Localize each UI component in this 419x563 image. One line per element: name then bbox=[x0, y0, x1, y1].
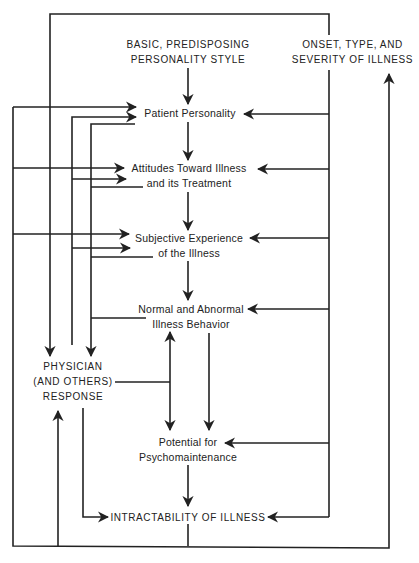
node-illness-behavior: Normal and Abnormal Illness Behavior bbox=[135, 302, 247, 332]
node-potential-line2: Psychomaintenance bbox=[136, 450, 240, 465]
node-onset-line1: ONSET, TYPE, AND bbox=[290, 37, 415, 52]
line-physician-up-72 bbox=[72, 117, 136, 345]
node-intractability-of-illness: INTRACTABILITY OF ILLNESS bbox=[110, 510, 266, 525]
line-to-physician-91 bbox=[91, 124, 135, 356]
node-physician-line2: (AND OTHERS) bbox=[30, 374, 116, 389]
node-onset-type-severity: ONSET, TYPE, AND SEVERITY OF ILLNESS bbox=[290, 37, 415, 67]
node-patient-personality-line1: Patient Personality bbox=[138, 106, 242, 121]
node-physician-response: PHYSICIAN (AND OTHERS) RESPONSE bbox=[30, 359, 116, 404]
node-behavior-line2: Illness Behavior bbox=[135, 317, 247, 332]
node-subjective-experience: Subjective Experience of the Illness bbox=[130, 231, 248, 261]
node-attitudes-line2: and its Treatment bbox=[126, 176, 252, 191]
node-basic-personality-style: BASIC, PREDISPOSING PERSONALITY STYLE bbox=[120, 37, 256, 67]
node-physician-line1: PHYSICIAN bbox=[30, 359, 116, 374]
node-subjective-line2: of the Illness bbox=[130, 246, 248, 261]
node-subjective-line1: Subjective Experience bbox=[130, 231, 248, 246]
node-onset-line2: SEVERITY OF ILLNESS bbox=[290, 52, 415, 67]
node-attitudes-line1: Attitudes Toward Illness bbox=[126, 161, 252, 176]
arrow-physician-to-intractability bbox=[83, 408, 108, 517]
node-basic-line2: PERSONALITY STYLE bbox=[120, 52, 256, 67]
node-potential-psychomaintenance: Potential for Psychomaintenance bbox=[136, 435, 240, 465]
flow-diagram-lines bbox=[0, 0, 419, 563]
node-behavior-line1: Normal and Abnormal bbox=[135, 302, 247, 317]
node-attitudes-toward-illness: Attitudes Toward Illness and its Treatme… bbox=[126, 161, 252, 191]
node-physician-line3: RESPONSE bbox=[30, 389, 116, 404]
node-basic-line1: BASIC, PREDISPOSING bbox=[120, 37, 256, 52]
node-potential-line1: Potential for bbox=[136, 435, 240, 450]
node-patient-personality: Patient Personality bbox=[138, 106, 242, 121]
node-intractability-line1: INTRACTABILITY OF ILLNESS bbox=[110, 510, 266, 525]
